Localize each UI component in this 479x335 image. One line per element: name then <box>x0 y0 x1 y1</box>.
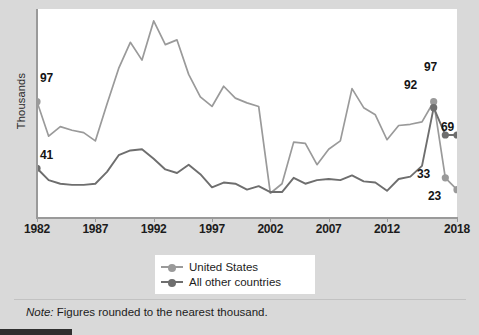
line-all-other-countries <box>37 108 457 192</box>
annotation-us-peak: 97 <box>424 60 437 74</box>
annotation-oth-start: 41 <box>40 148 53 162</box>
annotation-oth-end: 69 <box>441 120 454 134</box>
series-united-states <box>37 21 457 193</box>
x-axis-tick-label: 2018 <box>444 222 470 236</box>
legend-marker-united-states <box>161 262 183 272</box>
chart-plot-svg <box>37 9 457 217</box>
line-united-states <box>37 21 457 193</box>
legend-label-united-states: United States <box>189 261 258 273</box>
markers-all-other-countries <box>37 104 457 172</box>
chart-figure: Thousands 198219871992199720022007201220… <box>0 0 479 335</box>
x-axis-tick-label: 2012 <box>374 222 400 236</box>
footer-divider <box>14 299 466 300</box>
note-label: Note: <box>26 306 54 318</box>
data-point-marker <box>430 104 437 111</box>
legend-label-all-other-countries: All other countries <box>189 276 281 288</box>
annotation-oth-peak: 92 <box>404 78 417 92</box>
chart-note: Note: Figures rounded to the nearest tho… <box>26 306 268 318</box>
y-axis-title: Thousands <box>15 46 27 156</box>
legend-marker-all-other-countries <box>161 277 183 287</box>
note-text: Figures rounded to the nearest thousand. <box>54 306 268 318</box>
x-axis-tick-label: 1987 <box>82 222 108 236</box>
y-axis-line <box>36 9 38 218</box>
annotation-us-start: 97 <box>40 71 53 85</box>
x-axis-tick-label: 1982 <box>24 222 50 236</box>
x-axis-tick-label: 1992 <box>141 222 167 236</box>
legend-item-all-other-countries[interactable]: All other countries <box>161 275 309 289</box>
data-point-marker <box>442 174 449 181</box>
legend-item-united-states[interactable]: United States <box>161 260 309 274</box>
x-axis-tick-label: 2007 <box>316 222 342 236</box>
series-all-other-countries <box>37 104 457 192</box>
bottom-accent-bar <box>0 329 72 335</box>
x-axis-tick-label: 2002 <box>257 222 283 236</box>
x-axis-tick-label: 1997 <box>199 222 225 236</box>
chart-legend: United States All other countries <box>155 255 315 294</box>
x-axis-line <box>36 217 457 219</box>
plot-area <box>37 9 457 217</box>
annotation-us-end: 23 <box>428 189 441 203</box>
annotation-us-2017: 33 <box>417 167 430 181</box>
